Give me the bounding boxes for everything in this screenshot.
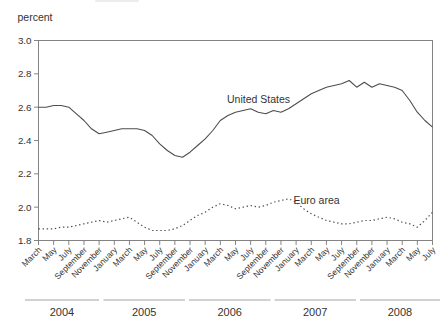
y-axis-title: percent (18, 11, 53, 23)
y-tick-label: 2.8 (18, 68, 32, 79)
x-tick-label: May (131, 244, 150, 263)
y-tick-label: 1.8 (18, 235, 32, 246)
year-label: 2007 (303, 306, 327, 318)
y-tick-label: 2.0 (18, 202, 32, 213)
series-annotation-euro-area: Euro area (294, 194, 340, 206)
x-tick-label: May (404, 244, 423, 263)
x-tick-label: May (313, 244, 332, 263)
x-tick-label: May (222, 244, 241, 263)
chart-figure: percent United States Euro area 3.02.82.… (0, 0, 441, 329)
year-label: 2005 (132, 306, 156, 318)
x-tick-label: July (420, 244, 438, 262)
euro-area-line (39, 199, 433, 231)
y-tick-label: 2.6 (18, 102, 32, 113)
x-tick-label: May (40, 244, 59, 263)
year-label: 2004 (50, 306, 74, 318)
plot-frame (39, 41, 433, 241)
series-annotation-united-states: United States (227, 93, 290, 105)
year-label: 2006 (218, 306, 242, 318)
y-tick-label: 3.0 (18, 35, 32, 46)
year-label: 2008 (388, 306, 412, 318)
y-tick-label: 2.4 (18, 135, 32, 146)
y-tick-label: 2.2 (18, 168, 32, 179)
chart-canvas: percent United States Euro area 3.02.82.… (0, 0, 441, 329)
